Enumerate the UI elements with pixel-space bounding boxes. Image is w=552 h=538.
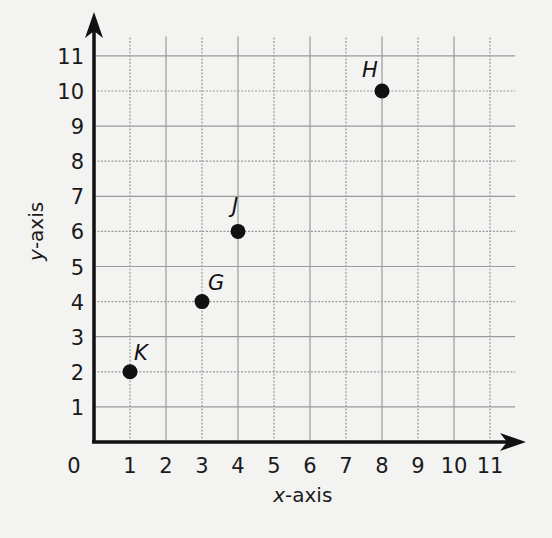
point-label-g: G: [208, 271, 224, 295]
coordinate-plane: 012345678910111234567891011x-axisy-axisK…: [0, 0, 552, 538]
x-tick-label: 7: [339, 454, 352, 478]
y-tick-label: 2: [71, 361, 84, 385]
x-axis-label: x-axis: [272, 483, 332, 507]
x-tick-label: 10: [441, 454, 468, 478]
y-tick-label: 9: [71, 115, 84, 139]
point-label-k: K: [134, 341, 150, 365]
x-tick-label: 6: [303, 454, 316, 478]
scatter-plot: 012345678910111234567891011x-axisy-axisK…: [0, 0, 552, 538]
x-tick-label: 1: [123, 454, 136, 478]
grid: [94, 37, 515, 442]
y-tick-label: 10: [57, 80, 84, 104]
x-tick-label: 4: [231, 454, 244, 478]
y-tick-label: 7: [71, 185, 84, 209]
point-label-j: J: [228, 194, 238, 218]
x-tick-label: 11: [477, 454, 504, 478]
x-tick-label: 9: [411, 454, 424, 478]
y-tick-label: 3: [71, 326, 84, 350]
y-tick-label: 1: [71, 396, 84, 420]
x-tick-label: 3: [195, 454, 208, 478]
x-tick-label: 0: [67, 454, 80, 478]
y-axis-label: y-axis: [24, 202, 48, 262]
x-tick-label: 8: [375, 454, 388, 478]
y-tick-label: 6: [71, 220, 84, 244]
y-tick-label: 8: [71, 150, 84, 174]
data-point-h: [375, 84, 390, 99]
y-tick-label: 4: [71, 291, 84, 315]
y-tick-label: 5: [71, 256, 84, 280]
x-tick-label: 5: [267, 454, 280, 478]
point-label-h: H: [362, 58, 378, 82]
data-point-k: [123, 364, 138, 379]
data-point-g: [195, 294, 210, 309]
x-tick-label: 2: [159, 454, 172, 478]
y-tick-label: 11: [57, 45, 84, 69]
data-point-j: [231, 224, 246, 239]
